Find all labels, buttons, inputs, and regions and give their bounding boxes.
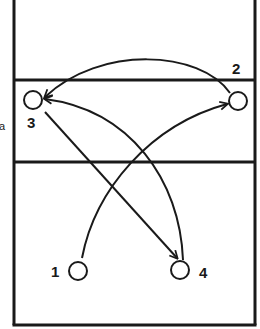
player-1: 1 [51, 262, 87, 280]
player-circle-icon [171, 261, 189, 279]
side-mark: a [0, 120, 6, 132]
court-outline [13, 0, 257, 325]
move-arrow-2-to-3 [45, 59, 230, 97]
player-3: 3 [24, 91, 42, 131]
move-arrow-3-to-4 [45, 112, 177, 258]
movement-arrows [45, 59, 230, 260]
player-4: 4 [171, 261, 208, 281]
player-2: 2 [229, 60, 247, 110]
player-circle-icon [69, 262, 87, 280]
player-label: 3 [27, 114, 35, 131]
player-label: 2 [232, 60, 240, 77]
players: 1234 [24, 60, 247, 281]
player-label: 1 [51, 263, 59, 280]
player-circle-icon [229, 92, 247, 110]
player-circle-icon [24, 91, 42, 109]
player-label: 4 [199, 264, 208, 281]
move-arrow-4-to-3 [45, 99, 183, 260]
court-diagram: 1234 a [0, 0, 260, 329]
move-arrow-1-to-2 [82, 104, 227, 258]
